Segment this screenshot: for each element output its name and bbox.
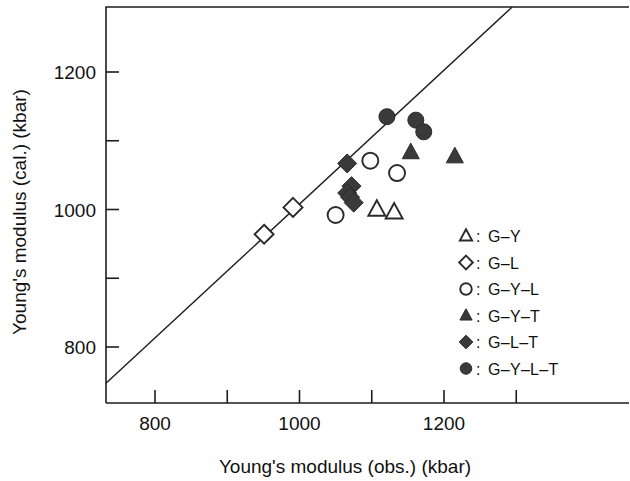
data-point-G-Y-L [362, 153, 378, 169]
legend-entry-G-Y-L-T: :G–Y–L–T [460, 361, 558, 378]
axis-tick-labels: 8001000120080010001200 [54, 62, 465, 434]
legend-label: G–Y–L–T [488, 361, 559, 378]
series-G-L [255, 198, 303, 244]
x-tick-label: 1000 [278, 413, 320, 434]
parity-line-segment [106, 7, 512, 383]
legend-label: G–Y [488, 228, 521, 245]
chart-figure: 8001000120080010001200 :G–Y:G–L:G–Y–L:G–… [0, 0, 630, 481]
data-point-G-Y-L [328, 207, 344, 223]
legend-entry-G-Y: :G–Y [460, 228, 521, 245]
parity-line [106, 7, 512, 383]
scatter-plot: 8001000120080010001200 :G–Y:G–L:G–Y–L:G–… [0, 0, 630, 481]
legend-marker-filled-triangle [460, 309, 472, 320]
data-point-G-Y-L [389, 165, 405, 181]
x-tick-label: 1200 [423, 413, 465, 434]
legend-entry-G-L-T: :G–L–T [459, 334, 538, 351]
legend-entry-G-Y-T: :G–Y–T [460, 308, 540, 325]
x-tick-label: 800 [139, 413, 171, 434]
series-G-Y-L-T [379, 109, 432, 140]
legend-separator: : [476, 361, 481, 378]
series-G-Y-T [402, 143, 463, 163]
legend-entry-G-L: :G–L [459, 255, 519, 272]
legend-separator: : [476, 308, 481, 325]
chart-legend: :G–Y:G–L:G–Y–L:G–Y–T:G–L–T:G–Y–L–T [459, 228, 558, 378]
data-points [255, 109, 464, 244]
series-G-Y [368, 200, 402, 218]
legend-separator: : [476, 281, 481, 298]
data-point-G-Y [386, 203, 403, 219]
legend-marker-open-circle [460, 283, 472, 295]
legend-entry-G-Y-L: :G–Y–L [460, 281, 539, 298]
legend-marker-filled-circle [460, 363, 472, 375]
legend-marker-open-triangle [460, 229, 472, 240]
x-axis-title: Young's modulus (obs.) (kbar) [219, 456, 471, 477]
y-tick-label: 1000 [54, 200, 96, 221]
data-point-G-L [283, 198, 302, 217]
legend-label: G–Y–L [488, 281, 539, 298]
data-point-G-Y-T [446, 147, 463, 163]
series-G-L-T [338, 154, 364, 212]
legend-label: G–L [488, 255, 519, 272]
data-point-G-L-T [338, 154, 357, 173]
y-axis-title: Young's modulus (cal.) (kbar) [9, 89, 30, 335]
legend-separator: : [476, 334, 481, 351]
legend-separator: : [476, 228, 481, 245]
legend-label: G–L–T [488, 334, 538, 351]
data-point-G-Y [368, 200, 385, 216]
legend-separator: : [476, 255, 481, 272]
data-point-G-Y-L-T [379, 109, 395, 125]
y-tick-label: 1200 [54, 62, 96, 83]
data-point-G-Y-L-T [416, 124, 432, 140]
y-tick-label: 800 [64, 337, 96, 358]
data-point-G-L [255, 225, 274, 244]
frame-top-left [106, 7, 629, 403]
legend-label: G–Y–T [488, 308, 540, 325]
axis-ticks [106, 72, 516, 403]
plot-frame [106, 7, 629, 403]
data-point-G-Y-T [402, 143, 419, 159]
legend-marker-filled-diamond [459, 335, 473, 349]
legend-marker-open-diamond [459, 256, 473, 270]
